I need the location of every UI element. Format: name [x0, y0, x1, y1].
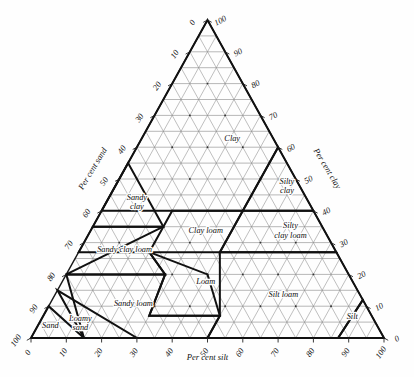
- axis-title-clay: Per cent clay: [311, 146, 344, 191]
- tick-label: 20: [356, 269, 368, 281]
- tick-label: 100: [9, 332, 24, 348]
- tick-label: 90: [340, 346, 353, 359]
- tick-label: 100: [213, 13, 229, 27]
- class-label-sandy-clay: Sandyclay: [127, 193, 148, 211]
- tick-label: 60: [80, 207, 93, 220]
- tick-label: 10: [169, 48, 182, 61]
- tick-label: 70: [63, 238, 76, 251]
- class-label-loamy-sand: Loamysand: [68, 314, 92, 332]
- class-label-loam: Loam: [195, 277, 215, 286]
- grid-layer: [40, 36, 375, 338]
- tick-label: 30: [337, 237, 350, 250]
- class-label-silty-clay-loam: Siltyclay loam: [274, 221, 307, 239]
- class-label-clay-loam: Clay loam: [189, 226, 223, 235]
- tick-label: 90: [232, 46, 244, 58]
- tick-label: 80: [250, 78, 262, 90]
- tick-label: 20: [92, 346, 105, 359]
- axis-title-silt: Per cent silt: [186, 352, 229, 362]
- class-label-sandy-loam: Sandy loam: [114, 299, 153, 308]
- tick-label: 10: [373, 301, 385, 313]
- tick-label: 0: [188, 18, 198, 27]
- tick-label: 10: [57, 346, 70, 359]
- class-label-clay: Clay: [224, 134, 240, 143]
- tick-label: 40: [163, 346, 176, 359]
- tick-label: 0: [23, 348, 33, 357]
- tick-label: 30: [133, 111, 146, 125]
- tick-label: 70: [269, 346, 282, 359]
- tick-label: 0: [393, 333, 402, 343]
- class-label-sand: Sand: [42, 321, 59, 330]
- tick-label: 50: [303, 173, 315, 185]
- tick-label: 70: [267, 110, 279, 122]
- tick-label: 100: [374, 344, 389, 360]
- tick-label: 20: [151, 79, 164, 92]
- class-label-silt-loam: Silt loam: [269, 290, 299, 299]
- class-label-silty-clay: Siltyclay: [280, 177, 295, 195]
- soil-texture-triangle-figure: 0102030405060708090100010203040506070809…: [0, 0, 414, 377]
- tick-label: 60: [285, 142, 297, 154]
- tick-label: 80: [45, 270, 58, 283]
- tick-label: 90: [28, 302, 41, 315]
- class-label-sandy-clay-loam: Sandy clay loam: [97, 245, 152, 254]
- ternary-chart-svg: 0102030405060708090100010203040506070809…: [0, 0, 414, 377]
- tick-label: 60: [234, 346, 247, 359]
- tick-label: 40: [320, 205, 332, 217]
- tick-label: 50: [98, 175, 111, 188]
- tick-label: 80: [304, 346, 317, 359]
- tick-label: 30: [127, 346, 140, 360]
- tick-label: 40: [116, 143, 129, 156]
- class-label-silt: Silt: [347, 312, 359, 321]
